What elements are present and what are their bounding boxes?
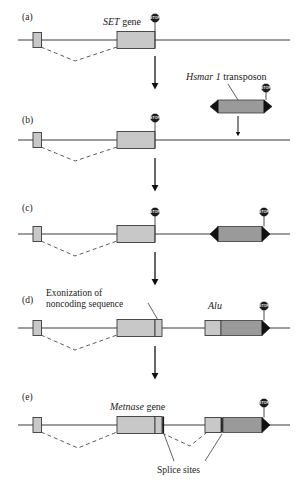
metnase-gene-formation-diagram: (a) SET gene STOP (b) Hsmar 1 transposon [0, 0, 305, 488]
figure-root: (a) SET gene STOP (b) Hsmar 1 transposon [0, 0, 305, 488]
intron-dashed-c [41, 241, 117, 256]
stop-sign-b2-text: STOP [261, 86, 271, 90]
panel-c: (c) STOP STOP [18, 203, 290, 256]
panel-a-label: (a) [22, 12, 33, 23]
transposon-body-d [221, 321, 262, 336]
new-exon-d [155, 320, 162, 337]
stop-sign-e-text: STOP [259, 401, 269, 405]
new-exon-e [155, 417, 162, 434]
exonization-label-line1: Exonization of [46, 288, 103, 298]
intron-dashed-e1 [41, 432, 117, 448]
small-exon-e [33, 418, 42, 433]
exonization-leader-line [148, 303, 158, 320]
stop-sign-c-text: STOP [150, 210, 160, 214]
intron-dashed-b [41, 147, 117, 161]
exonization-label-line2: noncoding sequence [46, 299, 123, 309]
metnase-gene-label-group: Metnase gene [109, 401, 166, 412]
integrated-transposon-e [223, 418, 270, 433]
inverted-repeat-right-c [262, 227, 270, 242]
stop-sign-e: STOP [259, 399, 269, 407]
panel-d: (d) Exonization of noncoding sequence Al… [18, 288, 290, 350]
stop-sign-c2: STOP [259, 208, 269, 216]
stop-sign-a: STOP [150, 14, 160, 22]
intron-dashed-d [41, 335, 117, 350]
transposon-body-c [218, 227, 262, 242]
set-gene-exon-b [117, 132, 155, 149]
panel-b: (b) Hsmar 1 transposon STOP STOP [18, 71, 290, 161]
transposon-body-b [218, 100, 264, 113]
stop-sign-b2: STOP [261, 84, 271, 92]
hsmar1-leader-line [228, 84, 238, 100]
set-gene-exon-e [117, 417, 155, 434]
inverted-repeat-left-b [210, 100, 218, 113]
panel-d-label: (d) [22, 295, 33, 306]
intron-dashed-a [41, 47, 117, 61]
panel-e: (e) Metnase gene STOP Splice sites [18, 392, 290, 475]
panel-a: (a) SET gene STOP [18, 12, 290, 61]
stop-sign-b-text: STOP [150, 116, 160, 120]
hsmar1-label-regular: transposon [221, 71, 267, 82]
inverted-repeat-right-e [262, 418, 270, 433]
set-gene-exon-d [117, 320, 155, 337]
set-gene-exon-c [117, 226, 155, 243]
small-exon-b [33, 133, 42, 148]
alu-element-d [205, 321, 221, 336]
set-gene-label-group: SET gene [103, 16, 142, 27]
panel-e-label: (e) [22, 392, 33, 403]
intron-dashed-e2 [162, 433, 206, 446]
stop-sign-a-text: STOP [150, 16, 160, 20]
metnase-label-italic: Metnase [109, 401, 144, 412]
stop-sign-d-text: STOP [259, 304, 269, 308]
set-gene-exon-a [117, 32, 155, 49]
inverted-repeat-right-b [264, 100, 272, 113]
inverted-repeat-left-c [210, 227, 218, 242]
set-gene-label-italic: SET [103, 16, 121, 27]
stop-sign-c: STOP [150, 208, 160, 216]
inverted-repeat-right-d [262, 321, 270, 336]
integrated-transposon-c [210, 227, 270, 242]
stop-sign-d: STOP [259, 302, 269, 310]
small-exon-a [33, 33, 42, 48]
free-transposon-b: STOP [210, 84, 272, 113]
metnase-label-regular: gene [144, 401, 166, 412]
panel-b-label: (b) [22, 115, 33, 126]
splice-sites-leader-right [205, 434, 222, 461]
splice-sites-leader-left [164, 434, 174, 461]
transposon-body-e [223, 418, 262, 433]
alu-label: Alu [207, 300, 222, 311]
hsmar1-transposon-label-group: Hsmar 1 transposon [185, 71, 267, 82]
set-gene-label-regular: gene [120, 16, 142, 27]
small-exon-d [33, 321, 42, 336]
splice-sites-label: Splice sites [157, 465, 200, 475]
stop-sign-b: STOP [150, 114, 160, 122]
integrated-transposon-d [221, 321, 270, 336]
small-exon-c [33, 227, 42, 242]
stop-sign-c2-text: STOP [259, 210, 269, 214]
panel-c-label: (c) [22, 203, 33, 214]
hsmar1-label-italic: Hsmar 1 [185, 71, 221, 82]
alu-element-e [205, 418, 221, 433]
